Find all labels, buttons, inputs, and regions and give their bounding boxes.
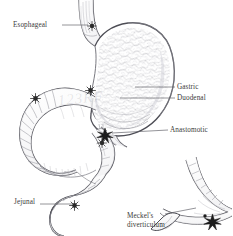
ulcer-marker-anastomotic-2 [98, 139, 107, 148]
duodenum-structure [20, 88, 96, 177]
ulcer-marker-duodenal [31, 94, 41, 104]
stomach-structure [91, 23, 175, 147]
label-meckels-line2: diverticulum [127, 221, 165, 229]
label-duodenal: Duodenal [177, 94, 206, 103]
ulcer-sites-figure: 123RF Esophageal Gastric Duodenal Anasto… [0, 0, 233, 236]
ulcer-marker-jejunal [70, 201, 80, 211]
label-jejunal: Jejunal [14, 198, 35, 207]
ulcer-marker-esophageal [88, 22, 97, 31]
label-gastric: Gastric [177, 83, 198, 92]
label-meckels-line1: Meckel's [127, 212, 153, 220]
ulcer-marker-meckels-dot [203, 214, 206, 217]
ulcer-marker-gastric [86, 86, 96, 96]
label-meckels-diverticulum: Meckel's diverticulum [127, 212, 183, 230]
label-anastomotic: Anastomotic [170, 126, 208, 135]
label-esophageal: Esophageal [13, 21, 47, 30]
